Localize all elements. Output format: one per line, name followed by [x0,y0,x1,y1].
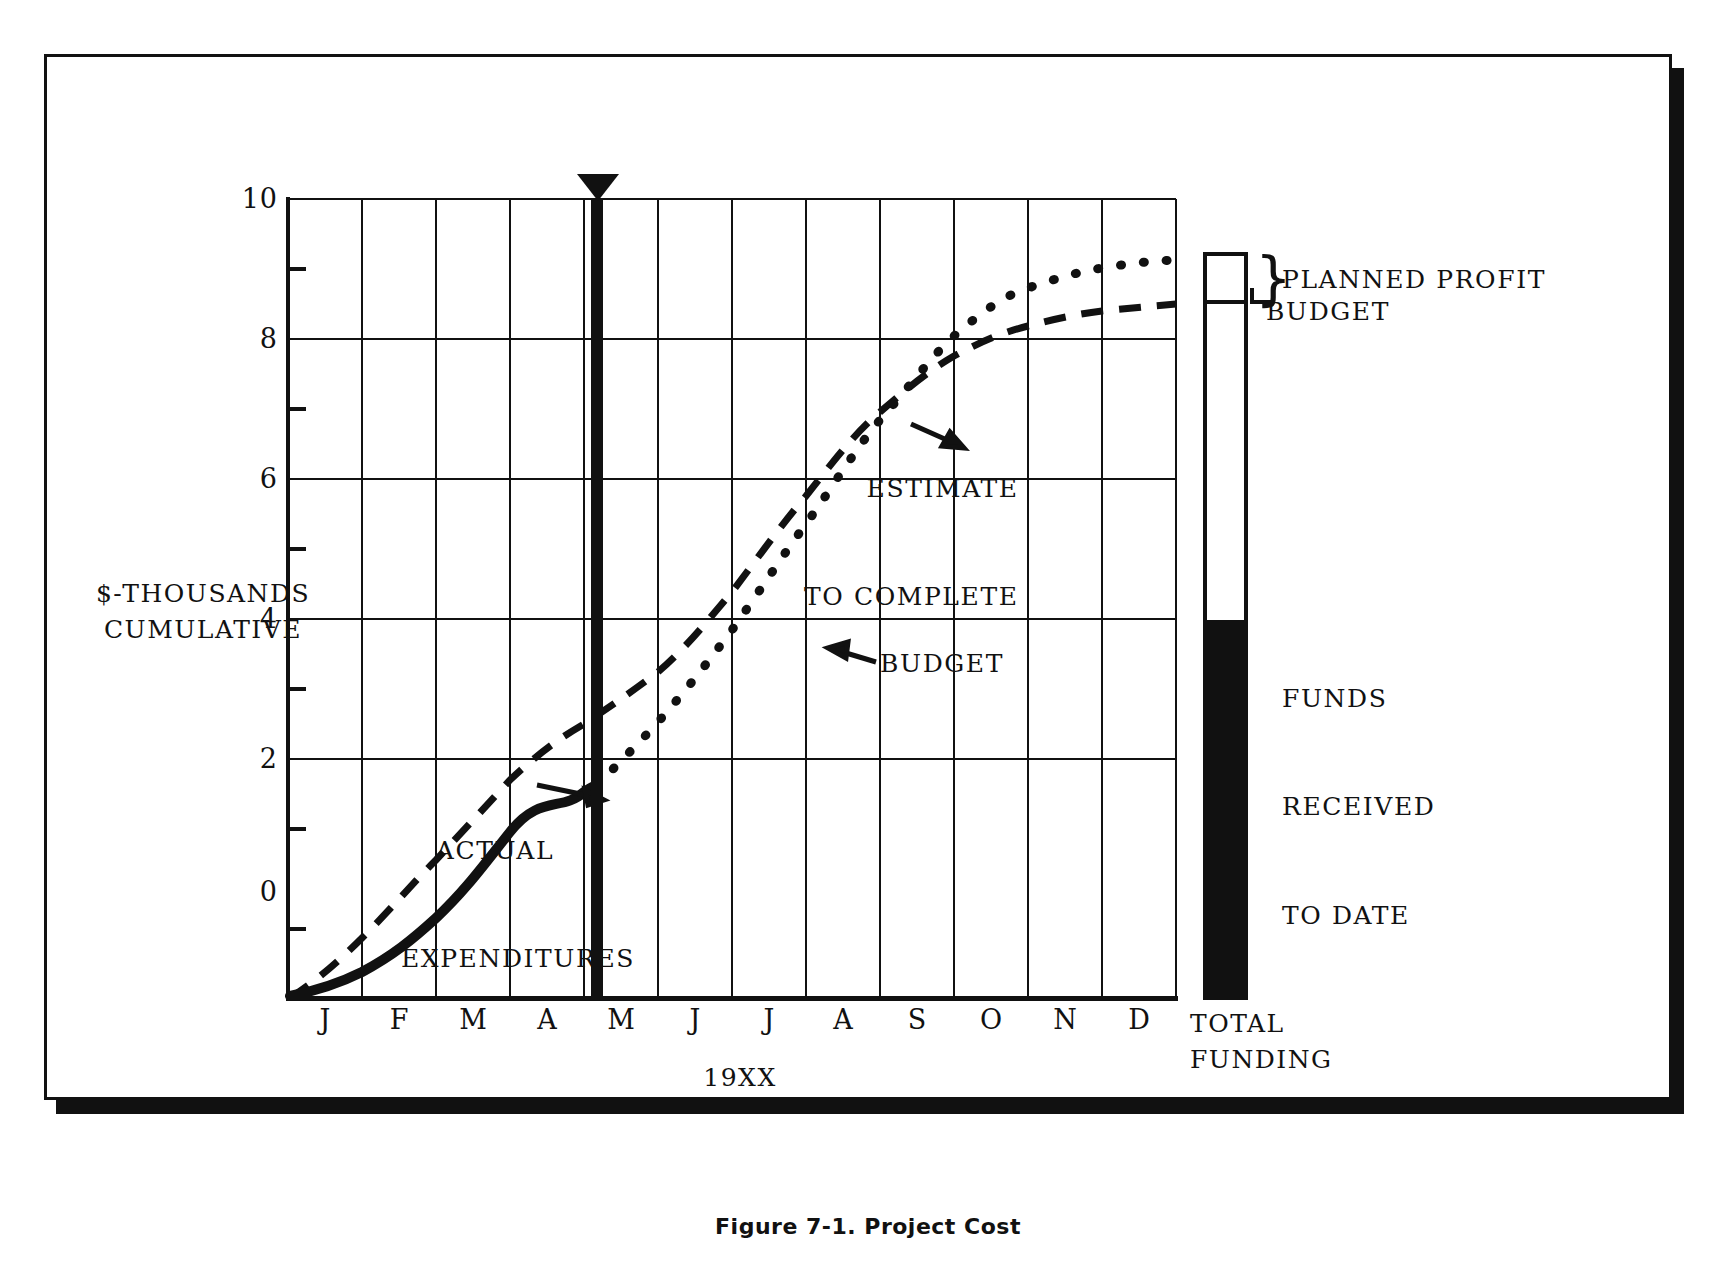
annotation-actual-line1: ACTUAL [355,833,635,869]
x-axis-title: 19XX [670,1063,810,1092]
total-funding-caption-line1: TOTAL [1190,1006,1340,1042]
y-axis-title: $-THOUSANDS CUMULATIVE [88,576,318,649]
label-funds-received-to-date: FUNDS RECEIVED TO DATE [1282,608,1435,1007]
x-tick-jan: J [295,1006,355,1033]
total-funding-budget-divider [1203,300,1248,304]
x-tick-dec: D [1109,1006,1169,1033]
y-axis-title-line2: CUMULATIVE [88,612,318,648]
label-funds-line1: FUNDS [1282,681,1435,717]
figure-caption: Figure 7-1. Project Cost [0,1214,1736,1239]
budget-leader-tick-vertical [1250,288,1254,304]
annotation-estimate-line2: TO COMPLETE [804,579,1019,615]
label-funds-line3: TO DATE [1282,898,1435,934]
annotation-actual-line2: EXPENDITURES [355,941,635,977]
x-tick-nov: N [1035,1006,1095,1033]
annotation-budget: BUDGET [880,646,1004,682]
y-axis-title-line1: $-THOUSANDS [88,576,318,612]
x-tick-jun: J [665,1006,725,1033]
annotation-estimate-to-complete: ESTIMATE TO COMPLETE [804,398,1019,688]
label-bar-budget: BUDGET [1266,294,1390,330]
x-tick-jul: J [739,1006,799,1033]
x-tick-sep: S [887,1006,947,1033]
total-funding-received-fill [1207,620,1244,996]
label-funds-line2: RECEIVED [1282,789,1435,825]
x-tick-oct: O [961,1006,1021,1033]
figure-page: 10 8 6 4 2 0 J F M A M J J A S O N D $-T… [0,0,1736,1262]
total-funding-caption-line2: FUNDING [1190,1042,1340,1078]
total-funding-caption: TOTAL FUNDING [1190,1006,1340,1079]
annotation-actual-expenditures: ACTUAL EXPENDITURES [355,760,635,1050]
x-tick-aug: A [813,1006,873,1033]
label-planned-profit: PLANNED PROFIT [1282,262,1546,298]
today-marker-triangle-icon [577,174,619,201]
annotation-estimate-line1: ESTIMATE [804,471,1019,507]
